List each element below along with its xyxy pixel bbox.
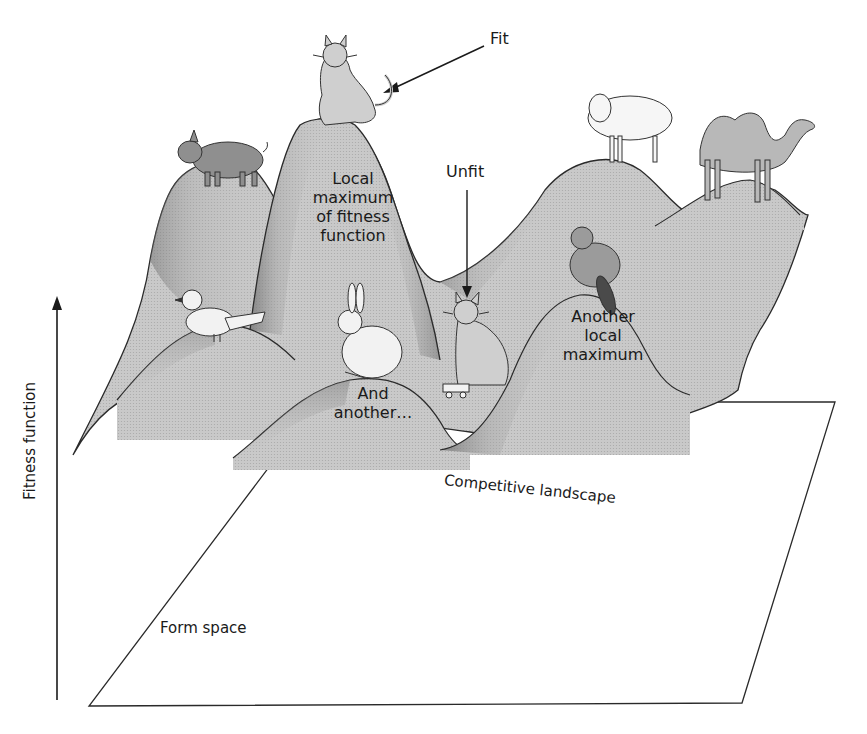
peak-label-line: maximum	[303, 189, 403, 208]
peak-label-line: And	[323, 385, 423, 404]
peak-label-line: of fitness	[303, 208, 403, 227]
fitness-landscape-diagram: Fit Unfit Local maximum of fitness funct…	[0, 0, 867, 734]
peak-label-line: function	[303, 227, 403, 246]
and-another-label: And another…	[323, 385, 423, 423]
cat-fit-icon	[313, 35, 392, 125]
another-local-maximum-label: Another local maximum	[555, 308, 651, 365]
fitness-function-axis-label: Fitness function	[22, 382, 40, 500]
camel-icon	[700, 113, 815, 202]
fit-arrow-line	[390, 46, 484, 90]
landscape-illustration	[0, 0, 867, 734]
form-space-label: Form space	[160, 620, 247, 638]
peak-label-line: another…	[323, 404, 423, 423]
peak-label-line: local	[555, 327, 651, 346]
local-maximum-label: Local maximum of fitness function	[303, 170, 403, 246]
roller-skate-icon	[443, 384, 469, 392]
peak-label-line: Local	[303, 170, 403, 189]
fit-label: Fit	[490, 30, 509, 49]
peak-label-line: Another	[555, 308, 651, 327]
peak-label-line: maximum	[555, 346, 651, 365]
arrow-up-icon	[52, 296, 62, 310]
unfit-label: Unfit	[446, 163, 484, 182]
sheep-icon	[588, 94, 672, 162]
